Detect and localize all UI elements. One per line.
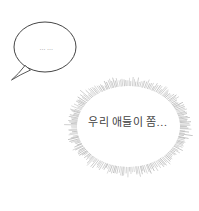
speech-bubble-tail <box>12 66 31 81</box>
speech-bubble-text: …… <box>22 44 72 52</box>
comic-panel: …… 우리 애들이 쫌… <box>0 0 199 211</box>
panel-artwork <box>0 0 199 211</box>
burst-bubble-text: 우리 애들이 쫌… <box>63 115 193 129</box>
